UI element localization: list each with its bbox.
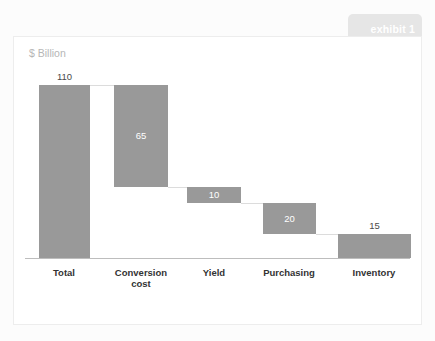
exhibit-tab[interactable]: exhibit 1 <box>348 14 422 38</box>
bar-conversion-cost[interactable]: 65 <box>114 85 168 187</box>
bar-inventory[interactable] <box>338 234 411 258</box>
category-label-yield: Yield <box>174 267 254 278</box>
bar-value-conversion-cost: 65 <box>114 131 168 141</box>
category-label-line: Yield <box>174 267 254 278</box>
category-label-line: cost <box>96 278 186 289</box>
category-label-purchasing: Purchasing <box>244 267 334 278</box>
bar-value-total: 110 <box>39 72 90 82</box>
category-label-line: Purchasing <box>244 267 334 278</box>
waterfall-chart-plot-area: 110Total65Conversioncost10Yield20Purchas… <box>14 37 423 326</box>
bar-yield[interactable]: 10 <box>187 187 241 203</box>
waterfall-connector <box>168 187 187 188</box>
bar-total[interactable] <box>39 85 90 258</box>
waterfall-connector <box>316 234 338 235</box>
chart-card: $ Billion 110Total65Conversioncost10Yiel… <box>13 36 422 325</box>
category-label-line: Inventory <box>329 267 419 278</box>
bar-value-yield: 10 <box>187 190 241 200</box>
waterfall-connector <box>241 203 263 204</box>
bar-value-purchasing: 20 <box>263 214 316 224</box>
chart-baseline-axis <box>25 258 410 259</box>
category-label-inventory: Inventory <box>329 267 419 278</box>
bar-purchasing[interactable]: 20 <box>263 203 316 234</box>
bar-value-inventory: 15 <box>338 221 411 231</box>
category-label-conversion-cost: Conversioncost <box>96 267 186 289</box>
category-label-line: Conversion <box>96 267 186 278</box>
exhibit-tab-label: exhibit 1 <box>371 23 415 35</box>
waterfall-connector <box>90 85 114 86</box>
